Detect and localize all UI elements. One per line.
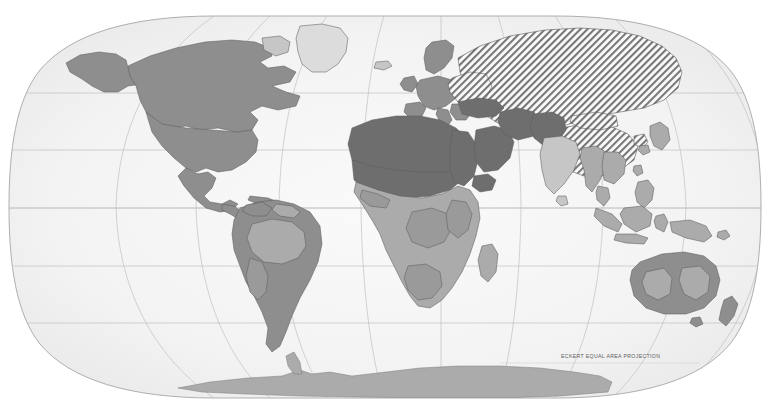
projection-caption: ECKERT EQUAL AREA PROJECTION	[561, 352, 660, 359]
world-map: ECKERT EQUAL AREA PROJECTION	[0, 0, 769, 414]
turkey	[458, 98, 504, 118]
